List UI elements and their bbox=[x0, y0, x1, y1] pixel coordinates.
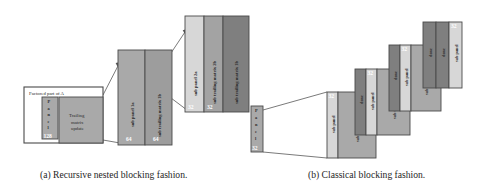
sub-trailing-matrix-1b-label-level2: sub trailing matrix 1b bbox=[234, 61, 239, 104]
sub-trailing-matrix-2b-label: sub trailing matrix 2b bbox=[212, 61, 217, 104]
panel-b-group: P a n e l 32 sub panel 32 sub trailing m… bbox=[251, 22, 462, 181]
connector-b-top bbox=[263, 92, 327, 110]
sub-trailing-matrix-1b-label: sub trailing matrix 1b bbox=[157, 94, 162, 137]
caption-a: (a) Recursive nested blocking fashion. bbox=[40, 169, 187, 181]
connector-a-0-1-top bbox=[103, 62, 120, 95]
step4-sub-panel-label: sub panel bbox=[454, 44, 459, 62]
panel-b-char-p: P bbox=[255, 108, 258, 113]
sub-panel-2a-block bbox=[185, 16, 204, 112]
figure-container: Factored part of A P a n e l 128 Trailin… bbox=[0, 0, 500, 188]
panel-char-p: P bbox=[48, 99, 51, 104]
step4-sub-panel-size: 32 bbox=[451, 23, 457, 29]
panel-char-e: e bbox=[48, 119, 50, 124]
factored-part-label: Factored part of A bbox=[29, 91, 65, 96]
connector-a-0-1-bottom bbox=[103, 140, 120, 143]
step3-done-label: done bbox=[393, 71, 398, 80]
step3-sub-panel-size: 32 bbox=[402, 46, 408, 52]
panel-b-panel-bar: P a n e l 32 bbox=[251, 106, 263, 152]
step4-done-label-1: done bbox=[428, 48, 433, 57]
step4-done-label-2: done bbox=[441, 48, 446, 57]
trailing-matrix-line-3: update bbox=[71, 126, 84, 131]
step2-sub-panel-size: 32 bbox=[368, 70, 374, 76]
panel-a-level2: sub panel 2a 32 sub trailing matrix 2b 3… bbox=[185, 16, 249, 112]
panel-a-level1: sub panel 1a 64 sub trailing matrix 1b 6… bbox=[118, 50, 172, 145]
sub-trailing-matrix-2b-size: 32 bbox=[207, 104, 213, 110]
connector-b-bottom bbox=[263, 152, 327, 158]
trailing-matrix-line-2: matrix bbox=[71, 120, 84, 125]
sub-panel-2a-size: 32 bbox=[188, 104, 194, 110]
step2-done-label: done bbox=[359, 95, 364, 104]
panel-b-char-e: e bbox=[255, 129, 257, 134]
panel-b-size: 32 bbox=[252, 145, 258, 151]
trailing-matrix-line-1: Trailing bbox=[69, 113, 85, 118]
step1-sub-panel-size: 32 bbox=[329, 93, 335, 99]
panel-size-level0: 128 bbox=[44, 133, 53, 139]
step1-sub-panel-label: sub panel bbox=[331, 115, 336, 133]
sub-trailing-matrix-1b-size: 64 bbox=[153, 136, 159, 142]
sub-panel-1a-size: 64 bbox=[126, 136, 132, 142]
sub-panel-1a-block bbox=[118, 50, 145, 145]
panel-b-step-4: done done sub panel 32 bbox=[423, 22, 462, 88]
panel-a-level0: Factored part of A P a n e l 128 Trailin… bbox=[24, 87, 103, 143]
panel-a-group: Factored part of A P a n e l 128 Trailin… bbox=[24, 16, 249, 181]
step3-sub-panel-label: sub panel bbox=[404, 68, 409, 86]
caption-b: (b) Classical blocking fashion. bbox=[308, 169, 425, 181]
blocking-fashion-diagram: Factored part of A P a n e l 128 Trailin… bbox=[0, 0, 500, 188]
step2-sub-panel-label: sub panel bbox=[370, 92, 375, 110]
sub-panel-2a-label: sub panel 2a bbox=[193, 71, 198, 96]
sub-panel-1a-label: sub panel 1a bbox=[130, 102, 135, 127]
